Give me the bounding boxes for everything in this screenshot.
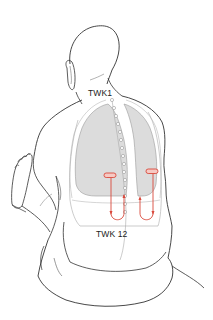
label-twk12: TWK 12 (96, 229, 127, 239)
foot-outline (12, 154, 33, 208)
torso-outline (34, 100, 82, 156)
head-outline (70, 26, 119, 84)
ear-outline (66, 60, 75, 89)
back-lung-illustration (0, 0, 213, 320)
label-twk1: TWK1 (88, 88, 112, 98)
right-lung (124, 104, 157, 196)
